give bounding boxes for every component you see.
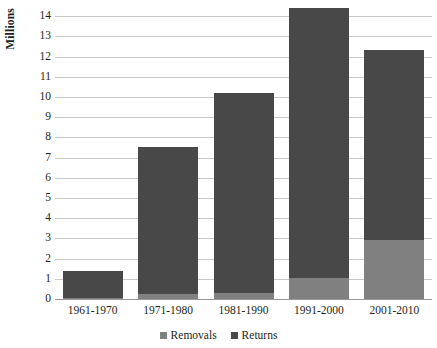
bar-segment-returns[interactable] [138,147,198,294]
x-axis-tick-label: 1971-1980 [128,304,208,316]
y-axis-tick-label: 5 [23,192,51,204]
legend-swatch-removals-icon [160,332,167,339]
y-axis-title-label: Millions [4,8,16,50]
x-axis-tick-label: 1981-1990 [204,304,284,316]
x-axis-tick-label: 1991-2000 [279,304,359,316]
x-axis-tick-label: 2001-2010 [354,304,434,316]
y-axis-tick-label: 0 [23,293,51,305]
bar-group[interactable] [289,8,349,299]
chart-title [0,0,437,3]
chart-legend: RemovalsReturns [0,329,437,341]
y-axis-tick-label: 8 [23,131,51,143]
y-axis-tick-label: 13 [23,30,51,42]
y-axis-tick-label: 11 [23,71,51,83]
legend-item[interactable]: Returns [231,329,278,341]
bar-segment-removals[interactable] [138,294,198,299]
y-axis-tick-label: 14 [23,10,51,22]
y-axis-tick-label: 2 [23,253,51,265]
legend-item[interactable]: Removals [160,329,217,341]
y-axis-tick-label: 3 [23,232,51,244]
bar-segment-removals[interactable] [289,278,349,299]
bar-segment-removals[interactable] [63,298,123,299]
y-axis-tick-label: 4 [23,212,51,224]
gridline [55,36,432,37]
plot-area [55,4,432,299]
bar-segment-returns[interactable] [63,271,123,298]
y-axis-title: Millions [1,8,19,88]
bar-group[interactable] [364,50,424,299]
x-axis-tick-label: 1961-1970 [53,304,133,316]
y-axis-tick-label: 9 [23,111,51,123]
y-axis-tick-label: 7 [23,152,51,164]
gridline [55,16,432,17]
stacked-bar-chart: Millions 01234567891011121314 1961-19701… [0,0,437,348]
bar-group[interactable] [214,93,274,299]
bar-segment-returns[interactable] [289,8,349,278]
x-axis-tick-labels: 1961-19701971-19801981-19901991-20002001… [55,304,432,324]
legend-item-label: Removals [171,329,217,341]
y-axis-tick-label: 10 [23,91,51,103]
bar-segment-removals[interactable] [214,293,274,299]
bar-group[interactable] [138,147,198,299]
legend-swatch-returns-icon [231,332,238,339]
y-axis-tick-label: 12 [23,51,51,63]
bar-group[interactable] [63,271,123,299]
bar-segment-removals[interactable] [364,240,424,299]
bar-segment-returns[interactable] [364,50,424,240]
legend-item-label: Returns [242,329,278,341]
y-axis-tick-label: 1 [23,273,51,285]
bar-segment-returns[interactable] [214,93,274,293]
axis-baseline [55,299,432,300]
y-axis-tick-label: 6 [23,172,51,184]
y-axis-tick-labels: 01234567891011121314 [19,4,51,299]
